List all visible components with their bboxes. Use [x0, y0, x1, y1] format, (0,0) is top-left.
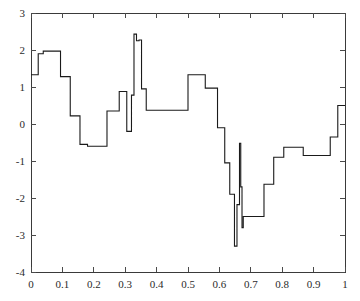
x-tick-label: 0.4	[150, 278, 164, 290]
x-tick-label: 0.1	[56, 278, 70, 290]
x-axis-tick-labels: 00.10.20.30.40.50.60.70.80.91	[28, 278, 348, 290]
axes-frame	[31, 13, 345, 272]
x-tick-label: 0.9	[307, 278, 321, 290]
y-tick-label: 3	[20, 7, 26, 19]
x-tick-label: 1	[342, 278, 348, 290]
y-tick-label: -4	[16, 266, 26, 278]
y-axis-ticks	[31, 13, 345, 272]
y-tick-label: 0	[20, 118, 26, 130]
x-tick-label: 0.6	[213, 278, 227, 290]
y-tick-label: 2	[20, 44, 26, 56]
x-tick-label: 0	[28, 278, 34, 290]
x-axis-ticks	[31, 13, 345, 272]
x-tick-label: 0.5	[181, 278, 195, 290]
chart-plot-area: 00.10.20.30.40.50.60.70.80.91 -4-3-2-101…	[0, 0, 360, 301]
x-tick-label: 0.7	[244, 278, 258, 290]
chart-figure: 00.10.20.30.40.50.60.70.80.91 -4-3-2-101…	[0, 0, 360, 301]
x-tick-label: 0.8	[275, 278, 289, 290]
x-tick-label: 0.2	[87, 278, 101, 290]
x-tick-label: 0.3	[118, 278, 132, 290]
y-tick-label: -3	[16, 229, 26, 241]
y-tick-label: -2	[16, 192, 25, 204]
y-tick-label: -1	[16, 155, 25, 167]
y-tick-label: 1	[20, 81, 26, 93]
y-axis-tick-labels: -4-3-2-10123	[16, 7, 26, 278]
data-series-line	[31, 34, 345, 246]
